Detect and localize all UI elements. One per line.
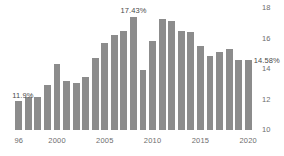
bar [82,77,89,130]
bar [73,83,80,130]
y-axis-tick-label: 12 [262,96,271,104]
bar [197,46,204,130]
y-axis-tick-label: 14 [262,65,271,73]
x-axis-tick-label: 2000 [48,136,66,145]
x-axis-tick-label: 2015 [192,136,210,145]
bar [34,97,41,130]
bar [207,56,214,130]
bar [216,52,223,130]
bar [120,31,127,130]
bar [130,17,137,130]
bar [187,32,194,130]
x-axis-tick-label: 2020 [239,136,257,145]
bar [149,41,156,130]
bar [159,19,166,130]
y-axis-tick-label: 18 [262,4,271,12]
bar [111,35,118,130]
bar [92,58,99,130]
x-axis-tick-label: 96 [14,136,23,145]
bar [101,43,108,130]
bar [54,64,61,130]
data-label: 17.43% [121,6,147,15]
bar [140,70,147,130]
x-axis-tick-label: 2010 [144,136,162,145]
y-axis: 1012141618 [258,8,284,130]
y-axis-tick-label: 16 [262,35,271,43]
data-label: 11.9% [12,91,33,100]
plot-area: 11.9%17.43%14.58% [0,8,256,130]
x-axis-tick-label: 2005 [96,136,114,145]
bar-chart: 11.9%17.43%14.58% 1012141618 96200020052… [0,0,284,156]
chart-title [70,0,220,4]
bar [168,21,175,130]
bar [63,81,70,130]
bar [226,49,233,130]
bar [15,101,22,130]
bar [178,31,185,130]
bar [25,97,32,130]
bar [235,60,242,130]
bar [44,85,51,130]
bar [245,60,252,130]
x-axis: 9620002005201020152020 [0,132,284,154]
